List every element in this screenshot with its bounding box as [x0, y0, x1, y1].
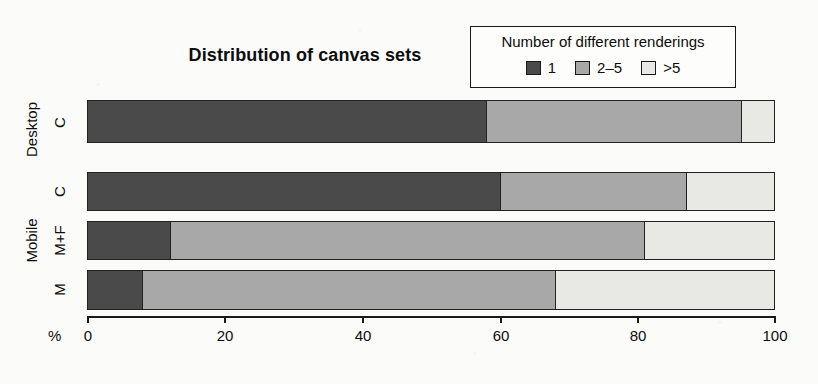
- bar-segment-2-5: [486, 100, 741, 143]
- x-axis-line: [87, 316, 775, 318]
- bar-desktop-c[interactable]: [87, 100, 775, 143]
- legend-label-2-5: 2–5: [597, 59, 622, 76]
- stacked-bar-chart: Distribution of canvas sets Number of di…: [0, 0, 818, 384]
- x-axis-tick-label-40: 40: [355, 327, 372, 344]
- x-axis-tick-80: [637, 316, 639, 323]
- y-group-label-desktop: Desktop: [23, 90, 40, 170]
- legend-label-1: 1: [548, 59, 556, 76]
- chart-title: Distribution of canvas sets: [140, 45, 470, 66]
- bar-segment-1: [87, 270, 142, 310]
- x-axis-tick-label-0: 0: [84, 327, 92, 344]
- chart-legend: Number of different renderings 1 2–5 >5: [470, 26, 736, 88]
- x-axis-tick-label-60: 60: [493, 327, 510, 344]
- y-axis-label-desktop-c: C: [51, 103, 68, 143]
- x-axis-tick-label-20: 20: [217, 327, 234, 344]
- x-axis-tick-20: [224, 316, 226, 323]
- plot-area: [87, 96, 775, 310]
- bar-segment-gt5: [555, 270, 775, 310]
- bar-segment-gt5: [741, 100, 775, 143]
- bar-mobile-c[interactable]: [87, 172, 775, 211]
- legend-swatch-2-5: [575, 61, 590, 75]
- y-group-label-mobile: Mobile: [23, 204, 40, 278]
- bar-mobile-m[interactable]: [87, 270, 775, 310]
- x-axis-tick-40: [362, 316, 364, 323]
- bar-mobile-mf[interactable]: [87, 221, 775, 260]
- x-axis-tick-100: [774, 316, 776, 323]
- bar-segment-1: [87, 172, 500, 211]
- bar-segment-1: [87, 100, 486, 143]
- legend-item-2-5: 2–5: [575, 59, 622, 76]
- x-axis-tick-0: [87, 316, 89, 323]
- legend-items: 1 2–5 >5: [471, 59, 735, 76]
- y-axis-label-mobile-c: C: [51, 172, 68, 212]
- bar-segment-1: [87, 221, 170, 260]
- legend-swatch-1: [526, 61, 541, 75]
- legend-title: Number of different renderings: [471, 33, 735, 50]
- x-axis-tick-label-100: 100: [762, 327, 787, 344]
- bar-segment-2-5: [500, 172, 686, 211]
- legend-item-gt5: >5: [641, 59, 680, 76]
- bar-segment-gt5: [686, 172, 775, 211]
- x-axis-tick-60: [500, 316, 502, 323]
- bar-segment-2-5: [170, 221, 645, 260]
- legend-swatch-gt5: [641, 61, 656, 75]
- legend-item-1: 1: [526, 59, 556, 76]
- x-axis-tick-label-80: 80: [630, 327, 647, 344]
- bar-segment-gt5: [644, 221, 775, 260]
- bar-segment-2-5: [142, 270, 555, 310]
- y-axis-label-mobile-mf: M+F: [51, 216, 68, 266]
- legend-label-gt5: >5: [663, 59, 680, 76]
- x-axis-unit-label: %: [48, 327, 61, 344]
- y-axis-label-mobile-m: M: [51, 270, 68, 310]
